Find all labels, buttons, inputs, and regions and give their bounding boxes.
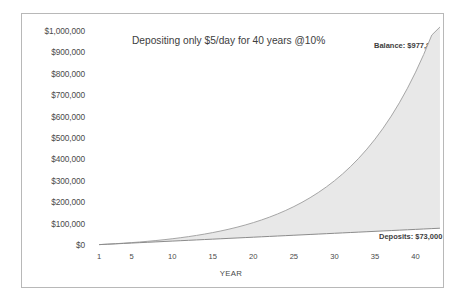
balance-area-series [99, 27, 440, 245]
x-axis-tick-15: 15 [200, 252, 226, 261]
y-axis-tick-800000: $800,000 [22, 69, 85, 79]
x-axis-tick-25: 25 [281, 252, 307, 261]
y-axis-tick-600000: $600,000 [22, 112, 85, 122]
y-axis-tick-200000: $200,000 [22, 197, 85, 207]
x-axis-tick-5: 5 [119, 252, 145, 261]
x-axis-title: YEAR [0, 269, 462, 278]
y-axis-tick-300000: $300,000 [22, 176, 85, 186]
x-axis-tick-30: 30 [321, 252, 347, 261]
x-axis-tick-40: 40 [403, 252, 429, 261]
x-axis-tick-1: 1 [86, 252, 112, 261]
balance-area-fill [99, 27, 440, 245]
chart-frame: Depositing only $5/day for 40 years @10%… [21, 13, 444, 288]
x-axis-tick-10: 10 [159, 252, 185, 261]
x-axis-tick-35: 35 [362, 252, 388, 261]
y-axis-tick-0: $0 [22, 240, 85, 250]
chart-plot-area [22, 14, 445, 289]
y-axis-tick-400000: $400,000 [22, 154, 85, 164]
x-axis-tick-20: 20 [240, 252, 266, 261]
y-axis-tick-700000: $700,000 [22, 90, 85, 100]
y-axis-tick-1000000: $1,000,000 [22, 26, 85, 36]
y-axis-tick-500000: $500,000 [22, 133, 85, 143]
y-axis-tick-900000: $900,000 [22, 47, 85, 57]
y-axis-tick-100000: $100,000 [22, 219, 85, 229]
